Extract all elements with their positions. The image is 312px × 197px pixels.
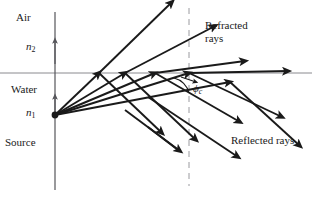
label-n2: n2 — [26, 41, 35, 54]
label-n1-subscript: 1 — [32, 111, 36, 120]
label-critical-angle: ϕc — [193, 83, 202, 96]
label-n1: n1 — [26, 107, 35, 120]
refracted-ray-1 — [99, 2, 172, 73]
label-air: Air — [16, 12, 31, 23]
reflected-ray-2 — [125, 73, 196, 140]
reflected-ray-critical — [189, 73, 282, 117]
optics-diagram: Air n2 Water n1 Source Refracted rays Re… — [0, 0, 312, 197]
reflected-ray-extra-c — [148, 127, 178, 150]
label-reflected-rays: Reflected rays — [231, 135, 294, 146]
label-refracted-rays-line2: rays — [205, 33, 223, 44]
label-n2-subscript: 2 — [32, 45, 36, 54]
reflected-ray-3 — [155, 73, 240, 122]
label-critical-angle-subscript: c — [199, 87, 203, 96]
reflected-ray-1 — [99, 73, 162, 133]
reflected-ray-extra-a — [148, 97, 238, 157]
source-point — [52, 112, 59, 119]
label-water: Water — [11, 84, 37, 95]
label-source: Source — [5, 137, 36, 148]
refracted-rays — [99, 2, 288, 73]
label-refracted-rays-line1: Refracted — [205, 20, 248, 31]
diagram-canvas — [0, 0, 312, 197]
